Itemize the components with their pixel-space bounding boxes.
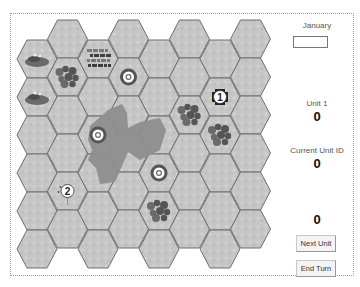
month-label: January <box>282 21 352 30</box>
unit-value: 0 <box>282 109 352 124</box>
svg-text:2: 2 <box>65 186 71 197</box>
current-unit-label: Current Unit ID <box>282 146 352 155</box>
target-icon <box>151 165 168 182</box>
unit-label: Unit 1 <box>282 99 352 108</box>
hex-map[interactable]: 12 <box>0 0 280 287</box>
target-icon <box>90 127 107 144</box>
end-turn-button[interactable]: End Turn <box>296 260 336 277</box>
target-icon <box>120 69 137 86</box>
next-unit-button[interactable]: Next Unit <box>296 235 336 252</box>
current-unit-value: 0 <box>282 156 352 171</box>
info-panel: January Unit 1 0 Current Unit ID 0 0 Nex… <box>282 13 352 276</box>
extra-value: 0 <box>282 212 352 227</box>
month-field[interactable] <box>293 36 328 48</box>
svg-text:1: 1 <box>217 92 223 103</box>
